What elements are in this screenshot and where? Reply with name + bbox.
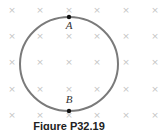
field-cross-icon: × — [122, 84, 130, 94]
field-cross-icon: × — [36, 110, 44, 120]
field-cross-icon: × — [93, 31, 101, 41]
field-cross-icon: × — [36, 5, 44, 15]
field-cross-icon: × — [93, 5, 101, 15]
field-cross-icon: × — [93, 110, 101, 120]
field-cross-icon: × — [151, 57, 159, 67]
field-cross-icon: × — [65, 57, 73, 67]
field-cross-icon: × — [93, 84, 101, 94]
field-cross-icon: × — [8, 110, 16, 120]
point-b-dot — [67, 109, 71, 113]
figure-canvas: ×××××××××××××××××××××××××××××× AB — [0, 0, 168, 130]
field-cross-icon: × — [93, 57, 101, 67]
field-cross-icon: × — [36, 31, 44, 41]
field-cross-icon: × — [65, 31, 73, 41]
field-cross-icon: × — [8, 84, 16, 94]
field-cross-icon: × — [122, 31, 130, 41]
magnetic-field-diagram: ×××××××××××××××××××××××××××××× AB — [0, 0, 168, 130]
field-cross-icon: × — [36, 57, 44, 67]
field-cross-icon: × — [151, 110, 159, 120]
field-cross-icon: × — [151, 5, 159, 15]
field-cross-icon: × — [151, 84, 159, 94]
field-cross-icon: × — [122, 5, 130, 15]
field-cross-icon: × — [122, 57, 130, 67]
field-cross-icon: × — [122, 110, 130, 120]
point-a-label: A — [65, 19, 73, 31]
field-cross-icon: × — [8, 31, 16, 41]
figure-caption: Figure P32.19 — [0, 120, 138, 130]
field-cross-marks: ×××××××××××××××××××××××××××××× — [8, 5, 159, 120]
point-b-label: B — [66, 93, 73, 105]
field-cross-icon: × — [65, 5, 73, 15]
field-cross-icon: × — [151, 31, 159, 41]
field-cross-icon: × — [8, 5, 16, 15]
field-cross-icon: × — [8, 57, 16, 67]
field-cross-icon: × — [36, 84, 44, 94]
